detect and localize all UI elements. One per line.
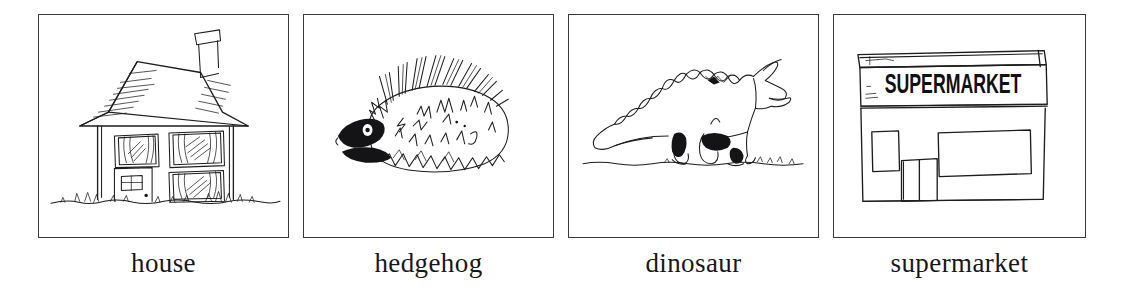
card-caption: dinosaur <box>568 247 819 279</box>
card-frame <box>38 14 289 238</box>
card-caption: house <box>38 247 289 279</box>
house-sketch <box>39 15 288 237</box>
dinosaur-sketch <box>569 15 818 237</box>
picture-card-dinosaur[interactable]: dinosaur <box>568 0 819 300</box>
card-sheet: house <box>0 0 1123 300</box>
hedgehog-sketch <box>304 15 553 237</box>
supermarket-sign-text: SUPERMARKET <box>885 69 1022 99</box>
card-caption: supermarket <box>833 247 1086 279</box>
supermarket-sketch: SUPERMARKET <box>834 15 1085 237</box>
card-caption: hedgehog <box>303 247 554 279</box>
card-frame <box>568 14 819 238</box>
card-frame <box>303 14 554 238</box>
picture-card-supermarket[interactable]: SUPERMARKET supermarket <box>833 0 1086 300</box>
picture-card-hedgehog[interactable]: hedgehog <box>303 0 554 300</box>
card-frame: SUPERMARKET <box>833 14 1086 238</box>
picture-card-house[interactable]: house <box>38 0 289 300</box>
